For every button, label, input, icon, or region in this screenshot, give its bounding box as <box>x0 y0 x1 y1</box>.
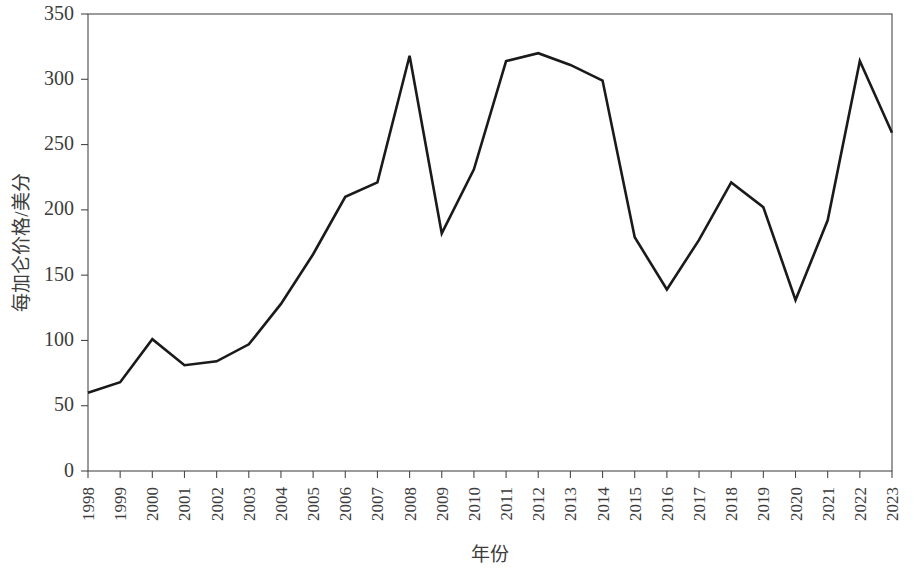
x-axis-title: 年份 <box>471 544 509 565</box>
x-tick-label: 2003 <box>240 487 259 521</box>
y-tick-label: 200 <box>44 197 74 219</box>
x-tick-label: 1998 <box>79 487 98 521</box>
x-tick-label: 2006 <box>336 487 355 521</box>
y-tick-label: 150 <box>44 263 74 285</box>
x-tick-label: 2020 <box>787 487 806 521</box>
x-tick-label: 1999 <box>111 487 130 521</box>
x-tick-label: 2015 <box>626 487 645 521</box>
x-tick-label: 2002 <box>208 487 227 521</box>
x-tick-label: 2007 <box>368 487 387 522</box>
y-tick-label: 0 <box>64 459 74 481</box>
x-tick-label: 2009 <box>433 487 452 521</box>
x-tick-label: 2004 <box>272 487 291 522</box>
x-tick-label: 2014 <box>594 487 613 522</box>
x-tick-label: 2001 <box>175 487 194 521</box>
x-tick-label: 2005 <box>304 487 323 521</box>
y-tick-label: 100 <box>44 328 74 350</box>
x-axis-ticks <box>88 471 892 478</box>
y-tick-label: 50 <box>54 393 74 415</box>
x-tick-label: 2018 <box>722 487 741 521</box>
y-axis-ticks <box>81 14 88 471</box>
x-tick-label: 2013 <box>561 487 580 521</box>
series-polyline <box>88 53 892 392</box>
x-tick-label: 2023 <box>883 487 902 521</box>
y-tick-label: 350 <box>44 2 74 24</box>
y-axis-title: 每加仑价格/美分 <box>11 173 32 311</box>
plot-border <box>88 14 892 471</box>
line-chart: 050100150200250300350 199819992000200120… <box>0 0 920 576</box>
plot-frame <box>88 14 892 471</box>
chart-canvas: 050100150200250300350 199819992000200120… <box>0 0 920 576</box>
x-tick-label: 2022 <box>851 487 870 521</box>
y-axis-tick-labels: 050100150200250300350 <box>44 2 74 481</box>
x-tick-label: 2021 <box>819 487 838 521</box>
x-tick-label: 2000 <box>143 487 162 521</box>
x-tick-label: 2016 <box>658 487 677 521</box>
x-tick-label: 2012 <box>529 487 548 521</box>
x-tick-label: 2011 <box>497 487 516 520</box>
x-tick-label: 2019 <box>754 487 773 521</box>
x-tick-label: 2010 <box>465 487 484 521</box>
x-axis-tick-labels: 1998199920002001200220032004200520062007… <box>79 487 902 522</box>
data-series-line <box>88 53 892 392</box>
x-tick-label: 2017 <box>690 487 709 522</box>
y-tick-label: 250 <box>44 132 74 154</box>
x-tick-label: 2008 <box>401 487 420 521</box>
y-tick-label: 300 <box>44 67 74 89</box>
